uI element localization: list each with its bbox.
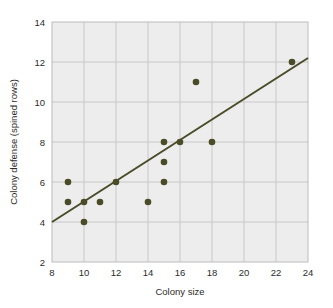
chart-canvas: 81012141618202224 2468101214 Colony size… [0, 0, 333, 308]
y-tick-label: 10 [34, 97, 45, 108]
x-tick-label: 8 [49, 267, 54, 278]
data-point [161, 179, 168, 186]
data-point [177, 139, 184, 146]
data-point [145, 199, 152, 206]
data-point [81, 219, 88, 226]
data-point [65, 199, 72, 206]
x-tick-label: 20 [239, 267, 250, 278]
data-point [193, 79, 200, 86]
data-point [161, 159, 168, 166]
data-point [113, 179, 120, 186]
y-tick-label: 14 [34, 17, 45, 28]
x-tick-label: 22 [271, 267, 282, 278]
data-point [97, 199, 104, 206]
data-point [161, 139, 168, 146]
x-axis-title: Colony size [155, 286, 204, 297]
x-tick-label: 10 [79, 267, 90, 278]
x-tick-label: 16 [175, 267, 186, 278]
data-point [209, 139, 216, 146]
data-point [289, 59, 296, 66]
data-point [65, 179, 72, 186]
y-tick-label: 12 [34, 57, 45, 68]
data-point [81, 199, 88, 206]
x-tick-label: 18 [207, 267, 218, 278]
y-tick-label: 6 [40, 177, 45, 188]
x-axis-tick-labels: 81012141618202224 [49, 267, 313, 278]
y-axis-title: Colony defense (spined rows) [8, 79, 19, 205]
x-tick-label: 14 [143, 267, 154, 278]
x-tick-label: 24 [303, 267, 314, 278]
scatter-plot-figure: 81012141618202224 2468101214 Colony size… [0, 0, 333, 308]
y-tick-label: 4 [40, 217, 45, 228]
x-tick-label: 12 [111, 267, 122, 278]
y-tick-label: 2 [40, 257, 45, 268]
y-tick-label: 8 [40, 137, 45, 148]
